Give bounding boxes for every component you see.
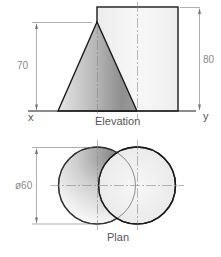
arrow-up-icon bbox=[35, 148, 38, 154]
elevation-title: Elevation bbox=[95, 115, 140, 127]
cylinder-height-dimension-label: 80 bbox=[203, 54, 214, 65]
arrow-down-icon bbox=[35, 218, 38, 224]
arrow-up-icon bbox=[35, 23, 38, 29]
arrow-down-icon bbox=[35, 105, 38, 111]
arrow-up-icon bbox=[198, 8, 201, 14]
plan-title: Plan bbox=[107, 231, 129, 243]
arrow-down-icon bbox=[198, 105, 201, 111]
ground-line-y-label: y bbox=[203, 110, 209, 122]
elevation-view bbox=[28, 2, 201, 119]
ground-line-x-label: x bbox=[28, 111, 34, 123]
cone-height-dimension-label: 70 bbox=[17, 60, 28, 71]
orthographic-drawing bbox=[0, 0, 221, 257]
diameter-dimension-label: ø60 bbox=[15, 180, 32, 191]
plan-view bbox=[32, 140, 184, 231]
